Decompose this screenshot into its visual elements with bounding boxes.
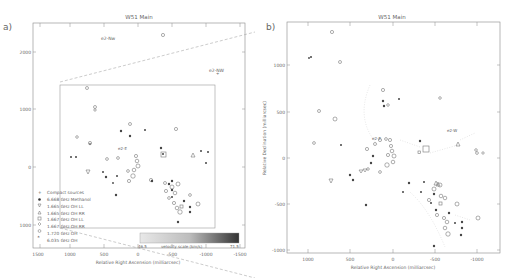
- legend-methanol: 6.668 GHz Methanol: [47, 197, 91, 202]
- panel-a: a) W51 Main 2000 1000 0 1000 1500 1000 5…: [3, 14, 255, 278]
- a-xtick: 1000: [64, 252, 76, 257]
- velocity-colorbar: [140, 233, 239, 243]
- legend-oh1720: 1.720 GHz OH: [47, 231, 77, 236]
- a-ytick: 1000: [20, 223, 32, 228]
- panel-a-markers: [76, 33, 200, 214]
- legend-oh1667-rr: 1.667 GHz OH RR: [47, 224, 85, 229]
- b-xtick: 500: [346, 257, 355, 262]
- a-xtick: 500: [100, 252, 109, 257]
- a-ytick: 2000: [20, 50, 32, 55]
- legend: + * Compact sources 6.668 GHz Methanol 1…: [38, 190, 91, 243]
- legend-oh1665-rr: 1.665 GHz OH RR: [47, 211, 85, 216]
- a-xtick: -1500: [233, 252, 246, 257]
- b-ylabel: Relative Declination (milliarcsec): [262, 101, 267, 175]
- legend-oh1667-ll: 1.667 GHz OH LL: [47, 217, 84, 222]
- compact-source-marker: +: [216, 71, 219, 76]
- b-xtick: -1000: [470, 257, 483, 262]
- colorbar-min: 46.5: [138, 244, 147, 249]
- b-xtick: 0: [392, 257, 395, 262]
- legend-oh6035: 6.035 GHz OH: [47, 238, 77, 243]
- a-annotation: e2-E: [118, 146, 127, 151]
- a-xtick: 0: [137, 252, 140, 257]
- legend-compact-sources: Compact sources: [47, 190, 85, 195]
- colorbar-label: velocity scale (km/s): [161, 244, 203, 249]
- a-ytick: 1000: [20, 107, 32, 112]
- panel-a-label: a): [3, 22, 12, 32]
- panel-b-axes: [287, 22, 500, 253]
- a-ytick: 0: [28, 165, 31, 170]
- svg-text:+: +: [38, 190, 42, 195]
- b-xtick: 1000: [302, 257, 314, 262]
- b-xlabel: Relative Right Ascension (milliarcsec): [351, 265, 436, 270]
- b-ytick: -1000: [272, 248, 285, 253]
- a-xtick: -500: [167, 252, 177, 257]
- a-annotation: e2-Nw: [101, 36, 116, 41]
- a-xlabel: Relative Right Ascension (milliarcsec): [96, 260, 181, 265]
- b-ytick: 1000: [274, 63, 286, 68]
- colorbar-max: 71.5: [230, 244, 239, 249]
- svg-text:*: *: [38, 235, 41, 240]
- panel-b: b) W51 Main 1000 500 0 -500 -1000 1000 5…: [262, 14, 500, 270]
- a-xtick: 1500: [32, 252, 44, 257]
- legend-oh1665-ll: 1.665 GHz OH LL: [47, 204, 84, 209]
- b-ytick: 0: [282, 156, 285, 161]
- zoom-connector-top: [60, 32, 255, 82]
- b-xtick: -500: [430, 257, 440, 262]
- b-ytick: -500: [275, 202, 285, 207]
- panel-a-filled-markers: [70, 129, 209, 223]
- panel-a-title: W51 Main: [125, 14, 153, 20]
- a-xtick: -1000: [199, 252, 212, 257]
- panel-b-title: W51 Main: [378, 14, 406, 20]
- panel-b-filled-markers: [308, 56, 463, 247]
- guide-lines: [364, 85, 475, 247]
- b-ytick: 500: [276, 110, 285, 115]
- figure: a) W51 Main 2000 1000 0 1000 1500 1000 5…: [0, 0, 510, 278]
- b-annotation: e2-W: [447, 128, 457, 133]
- panel-b-label: b): [266, 22, 275, 32]
- panel-b-markers: [313, 30, 485, 236]
